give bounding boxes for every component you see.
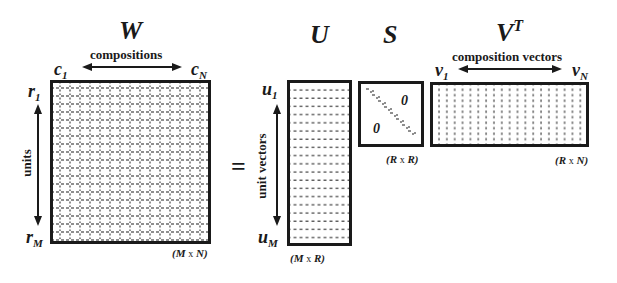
row-label-u1: u1 bbox=[262, 80, 278, 101]
row-label-rM: rM bbox=[26, 228, 43, 249]
matrix-vt-pattern bbox=[433, 85, 586, 144]
matrix-s-title: S bbox=[383, 22, 397, 48]
composition-vectors-label: composition vectors bbox=[452, 50, 562, 63]
matrix-w-title: W bbox=[119, 18, 142, 44]
matrix-vt-dimensions: (R x N) bbox=[555, 155, 588, 166]
matrix-u-pattern bbox=[290, 83, 349, 243]
col-label-vN: vN bbox=[572, 61, 588, 82]
matrix-w bbox=[50, 80, 211, 244]
matrix-u bbox=[287, 80, 352, 246]
row-label-r1: r1 bbox=[28, 82, 41, 103]
compositions-label: compositions bbox=[90, 48, 162, 61]
matrix-s: 0 0 bbox=[358, 81, 424, 147]
compositions-double-arrow-icon bbox=[82, 62, 182, 72]
matrix-w-pattern bbox=[53, 83, 208, 241]
zero-lower-label: 0 bbox=[373, 122, 380, 136]
row-label-uM: uM bbox=[258, 228, 278, 249]
matrix-u-dimensions: (M x R) bbox=[290, 253, 325, 264]
zero-upper-label: 0 bbox=[401, 94, 408, 108]
col-label-c1: c1 bbox=[54, 60, 68, 81]
matrix-s-dimensions: (R x R) bbox=[386, 154, 419, 165]
composition-vectors-double-arrow-icon bbox=[458, 64, 562, 74]
matrix-w-dimensions: (M x N) bbox=[172, 248, 208, 259]
col-label-v1: v1 bbox=[435, 61, 449, 82]
matrix-u-title: U bbox=[310, 22, 329, 48]
units-label: units bbox=[19, 143, 35, 183]
unit-vectors-label: unit vectors bbox=[254, 126, 270, 206]
matrix-vt-title: VT bbox=[496, 18, 523, 46]
matrix-s-diagonal bbox=[361, 84, 421, 144]
col-label-cN: cN bbox=[191, 60, 207, 81]
matrix-vt bbox=[430, 82, 589, 147]
